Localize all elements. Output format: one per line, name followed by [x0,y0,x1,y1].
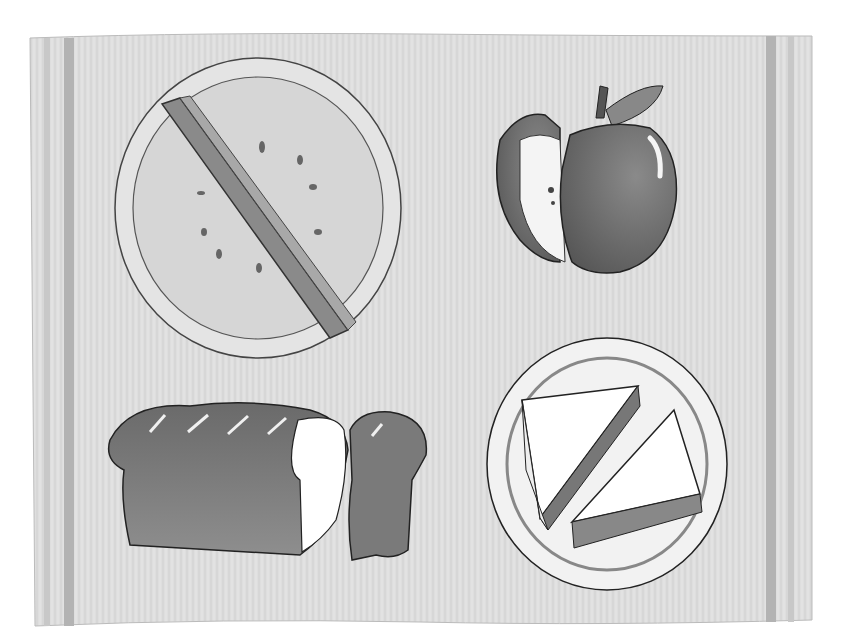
placemat-illustration [0,0,842,643]
left-stripe [64,38,74,626]
sandwich-plate [487,338,727,590]
bread-loaf [109,403,427,560]
pie [115,58,401,358]
left-stripe-thin [44,38,50,626]
right-stripe-thin [788,36,794,622]
right-stripe [766,36,776,622]
